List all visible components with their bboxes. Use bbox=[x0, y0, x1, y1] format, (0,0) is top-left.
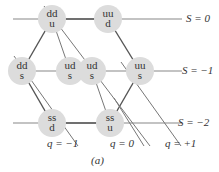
strangeness-label-minus1: S = −1 bbox=[182, 64, 213, 76]
node-quark-bottom: d bbox=[94, 18, 122, 28]
charge-label-plus1: q = +1 bbox=[165, 137, 196, 149]
baryon-node-dds: dds bbox=[8, 57, 36, 85]
node-quark-bottom: d bbox=[38, 122, 66, 132]
node-quark-bottom: u bbox=[38, 18, 66, 28]
baryon-node-uus: uus bbox=[126, 57, 154, 85]
baryon-node-ssu: ssu bbox=[96, 109, 124, 137]
baryon-node-uud: uud bbox=[94, 5, 122, 33]
node-quark-bottom: s bbox=[8, 70, 36, 80]
node-quark-bottom: u bbox=[96, 122, 124, 132]
baryon-node-ssd: ssd bbox=[38, 109, 66, 137]
charge-label-0: q = 0 bbox=[110, 137, 134, 149]
node-quark-bottom: s bbox=[78, 70, 106, 80]
baryon-node-ddu: ddu bbox=[38, 5, 66, 33]
node-quark-bottom: s bbox=[126, 70, 154, 80]
baryon-node-uds-2: uds bbox=[78, 57, 106, 85]
strangeness-label-0: S = 0 bbox=[186, 12, 210, 24]
charge-label-minus1: q = −1 bbox=[47, 137, 78, 149]
figure-caption: (a) bbox=[91, 154, 104, 166]
strangeness-label-minus2: S = −2 bbox=[178, 116, 209, 128]
